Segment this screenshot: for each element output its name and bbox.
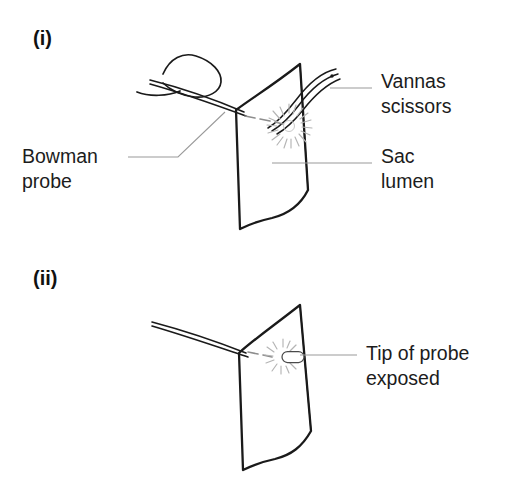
probe-tip-capsule bbox=[282, 352, 304, 363]
sac-fold-edge-panel-ii bbox=[300, 305, 311, 431]
bowman-probe-shaft-lower-panel-ii bbox=[152, 326, 248, 357]
vannas-scissors-blade-inner bbox=[277, 79, 340, 134]
incision-dash-2 bbox=[260, 119, 270, 121]
sac-outline-panel-ii bbox=[239, 305, 311, 470]
sac-outline-panel-i bbox=[236, 64, 308, 229]
callout-bowman-probe-line-1: Bowman bbox=[22, 145, 98, 167]
callout-bowman-probe: Bowman probe bbox=[22, 145, 103, 192]
callout-bowman-probe-line-2: probe bbox=[22, 170, 72, 192]
callout-vannas-scissors-line-1: Vannas bbox=[381, 70, 446, 92]
callout-tip-of-probe-exposed: Tip of probe exposed bbox=[366, 342, 475, 389]
panel-ii-group: (ii) bbox=[33, 267, 475, 470]
callout-tip-of-probe-line-2: exposed bbox=[366, 367, 440, 389]
callout-sac-lumen-line-2: lumen bbox=[381, 170, 434, 192]
panel-ii-index-label: (ii) bbox=[33, 267, 57, 289]
incision-dash-panel-ii-1 bbox=[248, 352, 258, 354]
callout-sac-lumen: Sac lumen bbox=[381, 145, 434, 192]
incision-dash-3 bbox=[275, 122, 283, 124]
vannas-scissors-blade-middle bbox=[272, 74, 338, 131]
diagram-canvas: (i) bbox=[0, 0, 521, 492]
callout-sac-lumen-line-1: Sac bbox=[381, 145, 415, 167]
bowman-probe-shaft-lower bbox=[150, 84, 246, 116]
incision-dash-1 bbox=[245, 116, 255, 118]
bowman-probe-shaft-upper-panel-ii bbox=[152, 322, 246, 353]
callout-vannas-scissors-line-2: scissors bbox=[381, 95, 452, 117]
panel-i-index-label: (i) bbox=[33, 27, 52, 49]
leader-line-bowman-probe bbox=[128, 112, 225, 157]
callout-vannas-scissors: Vannas scissors bbox=[381, 70, 452, 117]
vannas-scissors-pivot-dot bbox=[330, 74, 333, 77]
incision-sunburst-panel-i bbox=[267, 104, 312, 148]
panel-i-group: (i) bbox=[22, 27, 452, 229]
figure-root: (i) bbox=[0, 0, 521, 492]
callout-tip-of-probe-line-1: Tip of probe bbox=[366, 342, 469, 364]
